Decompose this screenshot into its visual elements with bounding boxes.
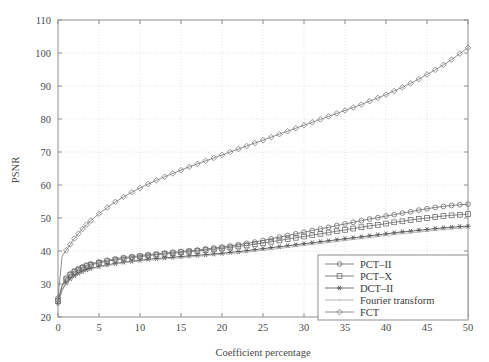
chart-canvas: 05101520253035404550 2030405060708090100…	[0, 0, 489, 362]
legend-label: PCT–X	[360, 271, 393, 282]
x-tick-label: 30	[299, 322, 310, 333]
x-tick-label: 25	[258, 322, 269, 333]
y-tick-label: 110	[36, 15, 51, 26]
y-axis-title: PSNR	[10, 157, 21, 183]
y-tick-label: 60	[41, 180, 52, 191]
x-tick-label: 35	[340, 322, 351, 333]
x-tick-label: 50	[463, 322, 474, 333]
x-tick-label: 40	[381, 322, 392, 333]
legend-label: FCT	[360, 307, 380, 318]
dot-marker-icon	[339, 299, 340, 300]
legend: PCT–IIPCT–XDCT–IIFourier transformFCT	[318, 255, 468, 320]
legend-label: Fourier transform	[360, 295, 434, 306]
y-tick-label: 50	[41, 213, 52, 224]
x-tick-label: 15	[176, 322, 187, 333]
y-tick-label: 90	[41, 81, 52, 92]
y-tick-label: 30	[41, 279, 52, 290]
legend-label: DCT–II	[360, 283, 394, 294]
x-tick-label: 5	[96, 322, 101, 333]
x-axis-title: Coefficient percentage	[215, 347, 310, 358]
y-tick-label: 70	[41, 147, 52, 158]
x-tick-label: 10	[135, 322, 146, 333]
y-tick-label: 20	[41, 312, 52, 323]
x-tick-label: 45	[422, 322, 433, 333]
legend-label: PCT–II	[360, 259, 392, 270]
y-tick-label: 40	[41, 246, 52, 257]
y-tick-label: 80	[41, 114, 52, 125]
x-tick-label: 0	[55, 322, 60, 333]
psnr-chart: 05101520253035404550 2030405060708090100…	[0, 0, 489, 362]
x-axis-tick-labels: 05101520253035404550	[55, 322, 473, 333]
y-axis-tick-labels: 2030405060708090100110	[35, 15, 51, 323]
y-tick-label: 100	[35, 48, 51, 59]
x-tick-label: 20	[217, 322, 228, 333]
